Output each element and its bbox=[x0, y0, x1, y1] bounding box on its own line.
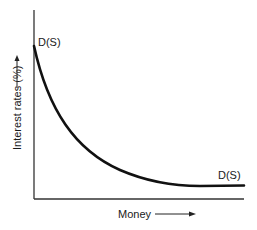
arrow-up-icon bbox=[15, 55, 20, 61]
money-demand-diagram: D(S) D(S) Interest rates (%) Money bbox=[0, 0, 257, 230]
curve-label-start: D(S) bbox=[38, 36, 61, 48]
demand-curve bbox=[34, 46, 244, 186]
curve-label-end: D(S) bbox=[218, 169, 241, 181]
arrow-right-icon bbox=[189, 212, 196, 217]
x-axis-label: Money bbox=[118, 208, 152, 220]
